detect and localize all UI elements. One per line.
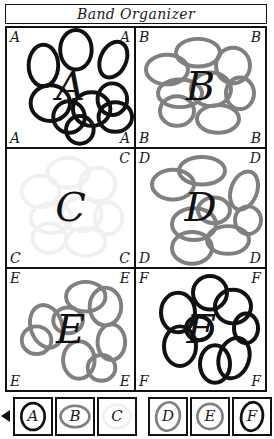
panel-a[interactable]: A A A A A bbox=[7, 28, 136, 149]
legend-cell-e[interactable]: E bbox=[190, 397, 230, 436]
corner-label-br: D bbox=[250, 251, 261, 265]
panel-e[interactable]: E E E E E bbox=[7, 269, 136, 390]
corner-label-bl: D bbox=[139, 251, 150, 265]
corner-label-tl: B bbox=[139, 30, 149, 44]
legend-cell-c[interactable]: C bbox=[97, 397, 137, 436]
ellipse-cluster-e bbox=[7, 269, 134, 390]
corner-label-tr: C bbox=[119, 151, 130, 165]
page-title: Band Organizer bbox=[77, 6, 195, 22]
corner-label-br: E bbox=[120, 374, 130, 388]
legend-label-c: C bbox=[99, 407, 135, 425]
legend-label-b: B bbox=[57, 407, 93, 425]
panel-c[interactable]: C C C C bbox=[7, 149, 136, 270]
corner-label-tl: E bbox=[10, 271, 20, 285]
corner-label-bl: E bbox=[10, 374, 20, 388]
legend-label-d: D bbox=[150, 407, 186, 425]
corner-label-bl: F bbox=[139, 374, 149, 388]
legend-strip: A B C D E bbox=[0, 396, 274, 438]
panel-f[interactable]: F F F F F bbox=[136, 269, 265, 390]
ellipse-cluster-a bbox=[7, 28, 134, 147]
legend-cell-b[interactable]: B bbox=[55, 397, 95, 436]
ellipse-cluster-c bbox=[7, 149, 134, 268]
ellipse-cluster-d bbox=[136, 149, 265, 268]
panel-d[interactable]: D D D D D bbox=[136, 149, 265, 270]
left-arrow-icon bbox=[1, 410, 10, 422]
corner-label-tl: F bbox=[139, 271, 149, 285]
corner-label-br: F bbox=[251, 374, 261, 388]
legend-label-e: E bbox=[192, 407, 228, 425]
corner-label-bl: B bbox=[139, 131, 149, 145]
corner-label-br: A bbox=[120, 131, 130, 145]
legend-cell-f[interactable]: F bbox=[232, 397, 272, 436]
title-bar: Band Organizer bbox=[5, 4, 267, 24]
corner-label-tr: D bbox=[250, 151, 261, 165]
band-organizer-window: Band Organizer A A A A bbox=[0, 0, 274, 439]
legend-cell-d[interactable]: D bbox=[148, 397, 188, 436]
corner-label-tr: E bbox=[120, 271, 130, 285]
corner-label-bl: A bbox=[10, 131, 20, 145]
legend-cell-a[interactable]: A bbox=[13, 397, 53, 436]
corner-label-tr: B bbox=[251, 30, 261, 44]
corner-label-tl: A bbox=[10, 30, 20, 44]
ellipse-cluster-f bbox=[136, 269, 265, 390]
corner-label-tr: A bbox=[120, 30, 130, 44]
legend-label-a: A bbox=[15, 407, 51, 425]
panel-grid: A A A A A B B B B bbox=[5, 26, 267, 392]
corner-label-br: B bbox=[251, 131, 261, 145]
corner-label-bl: C bbox=[10, 251, 21, 265]
panel-b[interactable]: B B B B B bbox=[136, 28, 265, 149]
legend-label-f: F bbox=[234, 407, 270, 425]
corner-label-tr: F bbox=[251, 271, 261, 285]
corner-label-br: C bbox=[119, 251, 130, 265]
corner-label-tl: D bbox=[139, 151, 150, 165]
ellipse-cluster-b bbox=[136, 28, 265, 147]
